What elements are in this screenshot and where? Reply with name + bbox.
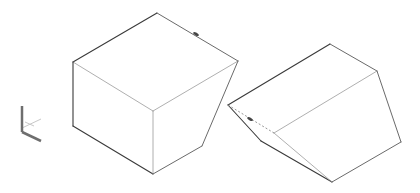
edge-line[interactable] xyxy=(274,71,377,133)
edge-line[interactable] xyxy=(73,62,153,111)
x-axis-icon xyxy=(22,132,41,141)
edge-line[interactable] xyxy=(73,13,157,62)
edge-line[interactable] xyxy=(153,61,238,111)
edge-line[interactable] xyxy=(228,105,261,141)
edge-line[interactable] xyxy=(153,146,202,174)
edge-line[interactable] xyxy=(377,71,401,142)
edge-line[interactable] xyxy=(73,126,153,174)
shapes-group xyxy=(73,13,401,182)
edge-line[interactable] xyxy=(332,142,401,182)
edge-line[interactable] xyxy=(157,13,238,61)
edge-line[interactable] xyxy=(202,61,238,146)
wedge-right[interactable] xyxy=(228,44,401,182)
y-axis-icon xyxy=(22,119,41,128)
edge-line[interactable] xyxy=(274,133,332,182)
grip-marker-icon[interactable] xyxy=(247,116,254,122)
truncated-cube-left[interactable] xyxy=(73,13,238,174)
edge-line[interactable] xyxy=(330,44,377,71)
edge-line[interactable] xyxy=(228,44,330,105)
drawing-canvas[interactable] xyxy=(0,0,420,193)
ucs-axis-icon xyxy=(22,106,41,141)
edge-line[interactable] xyxy=(261,141,332,182)
viewport-svg xyxy=(0,0,420,193)
